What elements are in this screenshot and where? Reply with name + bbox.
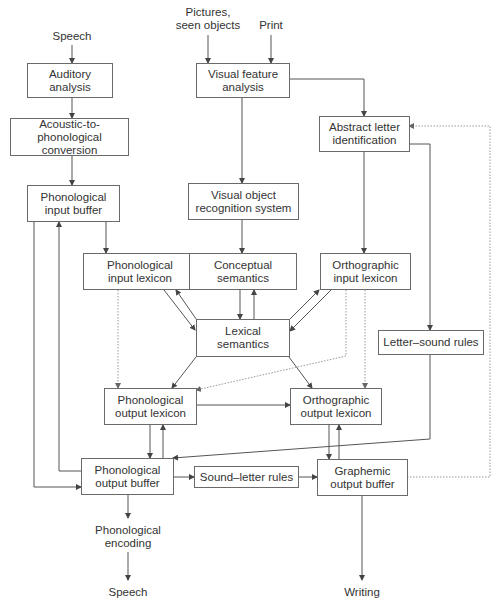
output-speech: Speech bbox=[108, 586, 147, 599]
input-print: Print bbox=[259, 19, 283, 32]
input-speech: Speech bbox=[52, 30, 91, 43]
phonological-output-lexicon-box: Phonological output lexicon bbox=[104, 388, 197, 425]
visual-feature-analysis-box: Visual feature analysis bbox=[196, 63, 290, 98]
lexical-semantics-box: Lexical semantics bbox=[196, 319, 290, 357]
phonological-input-buffer-box: Phonological input buffer bbox=[27, 185, 120, 222]
conceptual-semantics-box: Conceptual semantics bbox=[189, 253, 297, 290]
abstract-letter-identification-box: Abstract letter identification bbox=[319, 116, 410, 152]
phonological-output-buffer-box: Phonological output buffer bbox=[81, 458, 174, 495]
orthographic-output-lexicon-box: Orthographic output lexicon bbox=[290, 388, 382, 425]
letter-sound-rules-box: Letter–sound rules bbox=[378, 330, 484, 355]
graphemic-output-buffer-box: Graphemic output buffer bbox=[317, 459, 408, 496]
auditory-analysis-box: Auditory analysis bbox=[27, 63, 113, 98]
orthographic-input-lexicon-box: Orthographic input lexicon bbox=[320, 253, 411, 290]
output-phonological-encoding: Phonological encoding bbox=[95, 524, 161, 550]
output-writing: Writing bbox=[344, 586, 380, 599]
acoustic-to-phonological-box: Acoustic-to-phonological conversion bbox=[10, 118, 129, 156]
sound-letter-rules-box: Sound–letter rules bbox=[194, 466, 299, 488]
visual-object-recognition-box: Visual object recognition system bbox=[188, 183, 299, 220]
input-pictures: Pictures, seen objects bbox=[176, 6, 241, 32]
phonological-input-lexicon-box: Phonological input lexicon bbox=[83, 253, 197, 290]
